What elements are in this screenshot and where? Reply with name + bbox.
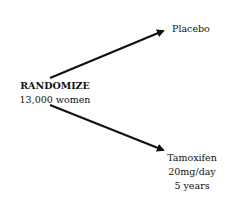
tamoxifen-label: Tamoxifen: [164, 151, 220, 164]
randomization-diagram: Placebo RANDOMIZE 13,000 women Tamoxifen…: [0, 0, 242, 202]
population-label: 13,000 women: [14, 93, 96, 106]
randomize-label: RANDOMIZE: [14, 79, 96, 92]
arrow-to-placebo: [50, 31, 163, 78]
tamoxifen-dose: 20mg/day: [164, 165, 220, 178]
placebo-label: Placebo: [172, 22, 210, 35]
tamoxifen-duration: 5 years: [164, 179, 220, 192]
arrow-to-tamoxifen: [50, 105, 163, 150]
